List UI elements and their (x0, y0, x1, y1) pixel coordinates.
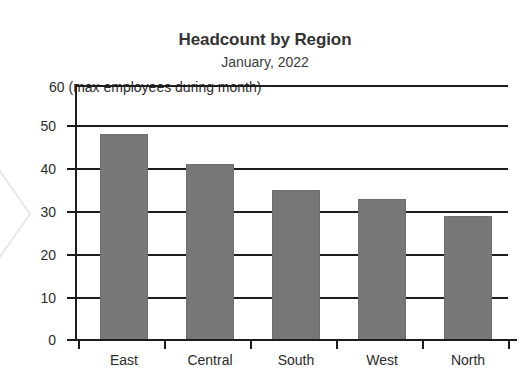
bar-south[interactable] (272, 190, 320, 340)
x-tick-label-east: East (81, 352, 167, 368)
x-tick-label-south: South (253, 352, 339, 368)
y-axis-max-note: 60 (max employees during month) (49, 80, 261, 94)
bar-east[interactable] (100, 134, 148, 340)
y-tick-label-0: 0 (10, 333, 56, 347)
y-axis-line (75, 84, 77, 341)
gridline-60 (75, 85, 508, 87)
y-tick-label-20: 20 (10, 248, 56, 262)
y-axis-note-text: (max employees during month) (68, 79, 261, 95)
x-tickmark-0 (78, 341, 80, 349)
chart-screenshot: Headcount by Region January, 2022 60 (ma… (0, 0, 530, 387)
plot-area: 60 (max employees during month) 50 40 30… (0, 0, 530, 387)
y-tick-label-50: 50 (10, 119, 56, 133)
bar-central[interactable] (186, 164, 234, 340)
x-tickmark-5 (508, 341, 510, 349)
x-tick-label-north: North (425, 352, 511, 368)
bar-north[interactable] (444, 216, 492, 340)
bar-west[interactable] (358, 199, 406, 340)
x-tick-label-central: Central (167, 352, 253, 368)
x-tickmark-4 (422, 341, 424, 349)
x-tickmark-3 (336, 341, 338, 349)
x-tickmark-1 (164, 341, 166, 349)
x-tickmark-2 (250, 341, 252, 349)
x-tick-label-west: West (339, 352, 425, 368)
y-tick-label-10: 10 (10, 291, 56, 305)
y-tick-label-30: 30 (10, 205, 56, 219)
x-axis-line (75, 339, 517, 341)
y-tick-label-40: 40 (10, 162, 56, 176)
y-tick-label-60: 60 (49, 79, 65, 95)
gridline-50 (75, 125, 508, 127)
